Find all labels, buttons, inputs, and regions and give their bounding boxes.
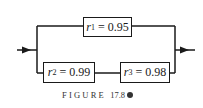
figure-caption: FIGURE 17.8 — [62, 90, 133, 100]
r2-value: 0.99 — [69, 65, 90, 80]
caption-number: 17.8 — [110, 90, 125, 100]
caption-word: FIGURE — [62, 90, 106, 100]
component-r3: r3 = 0.98 — [120, 62, 170, 83]
r1-value: 0.95 — [108, 20, 129, 35]
r1-subscript: 1 — [91, 23, 95, 32]
equals-sign: = — [59, 65, 66, 80]
r3-value: 0.98 — [145, 65, 166, 80]
component-r1: r1 = 0.95 — [83, 17, 132, 37]
r2-subscript: 2 — [52, 68, 56, 77]
component-r2: r2 = 0.99 — [43, 62, 95, 83]
r3-subscript: 3 — [128, 68, 132, 77]
bullet-icon — [127, 92, 133, 98]
input-arrow-icon — [22, 47, 31, 54]
equals-sign: = — [135, 65, 142, 80]
equals-sign: = — [98, 20, 105, 35]
output-arrow-icon — [180, 47, 189, 54]
